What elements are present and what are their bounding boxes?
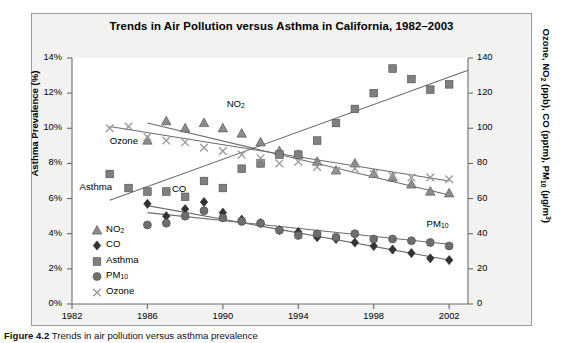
plot-svg bbox=[72, 58, 468, 304]
diamond-glyph bbox=[93, 241, 101, 250]
data-point bbox=[276, 160, 284, 168]
data-point bbox=[445, 175, 453, 183]
caption-label: Figure 4.2 bbox=[4, 330, 49, 341]
data-point bbox=[181, 212, 189, 220]
data-point bbox=[200, 144, 208, 152]
y-tick-label-left: 4% bbox=[28, 228, 62, 238]
series-annotation-no2: NO2 bbox=[227, 98, 245, 109]
square-marker-icon bbox=[90, 255, 104, 268]
data-point bbox=[180, 123, 190, 132]
legend-label: Asthma bbox=[106, 254, 139, 265]
data-point bbox=[256, 137, 265, 146]
data-point bbox=[200, 207, 208, 215]
data-point bbox=[219, 214, 227, 222]
x-tick-label: 1994 bbox=[278, 311, 318, 321]
trend-line-no2 bbox=[147, 123, 449, 195]
data-point bbox=[238, 217, 246, 225]
y-tick-label-right: 20 bbox=[477, 263, 511, 273]
data-point bbox=[427, 254, 435, 263]
data-point bbox=[294, 231, 302, 239]
figure-container: Trends in Air Pollution versus Asthma in… bbox=[0, 0, 564, 343]
legend-label: PM10 bbox=[106, 269, 128, 280]
data-point bbox=[313, 230, 321, 238]
diamond-marker-icon bbox=[90, 239, 104, 252]
data-point bbox=[389, 65, 397, 73]
data-point bbox=[219, 184, 227, 192]
y-tick-label-left: 10% bbox=[28, 122, 62, 132]
triangle-glyph bbox=[92, 226, 102, 235]
data-point bbox=[181, 193, 189, 201]
legend-label: NO2 bbox=[106, 223, 124, 234]
y-tick-label-left: 12% bbox=[28, 87, 62, 97]
data-point bbox=[162, 219, 170, 227]
data-point bbox=[351, 238, 359, 247]
cross-marker-icon bbox=[90, 286, 104, 299]
series-annotation-ozone: Ozone bbox=[110, 135, 138, 146]
data-point bbox=[445, 242, 453, 250]
data-point bbox=[181, 139, 189, 147]
data-point bbox=[162, 137, 170, 145]
y-tick-label-left: 8% bbox=[28, 157, 62, 167]
data-point bbox=[389, 245, 397, 254]
legend-label: Ozone bbox=[106, 285, 134, 296]
data-point bbox=[408, 248, 416, 257]
cross-glyph bbox=[93, 288, 101, 296]
figure-caption: Figure 4.2 Trends in air pollution versu… bbox=[4, 330, 258, 341]
y-tick-label-left: 6% bbox=[28, 193, 62, 203]
data-point bbox=[162, 116, 172, 125]
y-tick-label-left: 2% bbox=[28, 263, 62, 273]
data-point bbox=[199, 118, 209, 127]
square-glyph bbox=[93, 257, 101, 265]
caption-text: Trends in air pollution versus asthma pr… bbox=[49, 330, 258, 341]
data-point bbox=[219, 147, 227, 155]
data-point bbox=[218, 123, 228, 132]
data-point bbox=[407, 237, 415, 245]
data-point bbox=[370, 89, 378, 97]
data-point bbox=[426, 86, 434, 94]
data-point bbox=[370, 235, 378, 243]
data-point bbox=[125, 184, 133, 192]
data-point bbox=[332, 119, 340, 127]
series-co bbox=[144, 197, 453, 264]
x-tick-label: 1982 bbox=[52, 311, 92, 321]
data-point bbox=[257, 219, 265, 227]
data-point bbox=[200, 197, 208, 206]
series-annotation-co: CO bbox=[172, 183, 186, 194]
data-point bbox=[445, 81, 453, 89]
data-point bbox=[144, 199, 152, 208]
series-asthma bbox=[106, 65, 453, 201]
data-point bbox=[106, 170, 114, 178]
data-point bbox=[162, 188, 170, 196]
data-point bbox=[332, 233, 340, 241]
data-point bbox=[200, 177, 208, 185]
triangle-marker-icon bbox=[90, 224, 104, 237]
x-tick-label: 2002 bbox=[429, 311, 469, 321]
y-tick-label-left: 14% bbox=[28, 52, 62, 62]
x-tick-label: 1986 bbox=[127, 311, 167, 321]
y-tick-label-right: 80 bbox=[477, 157, 511, 167]
circle-glyph bbox=[93, 273, 101, 281]
data-point bbox=[144, 188, 152, 196]
x-tick-label: 1990 bbox=[203, 311, 243, 321]
legend-label: CO bbox=[106, 238, 120, 249]
y-tick-label-right: 60 bbox=[477, 193, 511, 203]
data-point bbox=[294, 151, 302, 159]
y-tick-label-right: 100 bbox=[477, 122, 511, 132]
y-axis-right-title: Ozone, NO2 (ppb), CO (pptm), PM10 (µg/m3… bbox=[540, 1, 551, 251]
data-point bbox=[276, 151, 284, 159]
chart-title: Trends in Air Pollution versus Asthma in… bbox=[31, 20, 532, 32]
y-tick-label-right: 40 bbox=[477, 228, 511, 238]
data-point bbox=[313, 137, 321, 145]
data-point bbox=[444, 188, 454, 197]
x-tick-label: 1998 bbox=[354, 311, 394, 321]
circle-marker-icon bbox=[90, 270, 104, 283]
y-tick-label-right: 120 bbox=[477, 87, 511, 97]
series-annotation-asthma: Asthma bbox=[80, 181, 113, 192]
plot-area bbox=[72, 58, 468, 304]
y-tick-label-right: 0 bbox=[477, 298, 511, 308]
data-point bbox=[445, 255, 453, 264]
series-annotation-pm10: PM10 bbox=[427, 218, 449, 229]
y-tick-label-left: 0% bbox=[28, 298, 62, 308]
data-point bbox=[238, 165, 246, 173]
data-point bbox=[351, 105, 359, 113]
